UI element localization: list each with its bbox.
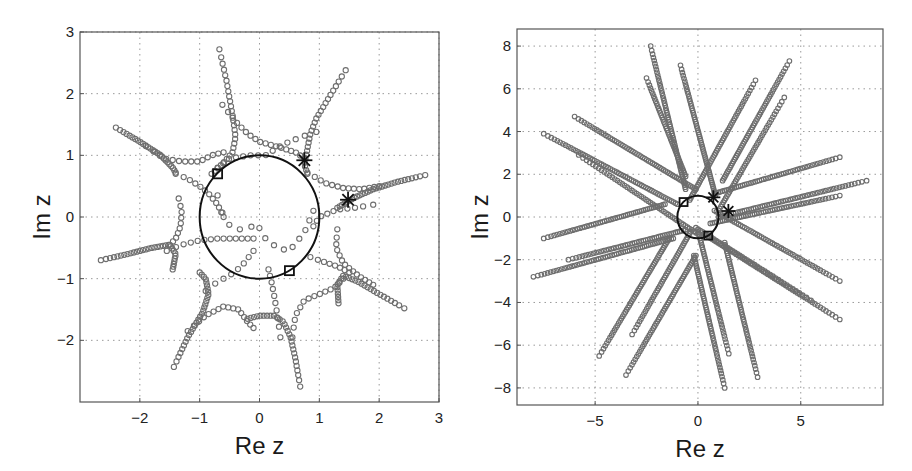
x-tick-label: −2 bbox=[131, 409, 148, 426]
data-point bbox=[198, 184, 203, 189]
star-marker bbox=[296, 152, 312, 168]
y-tick-label: 2 bbox=[503, 165, 511, 182]
grid bbox=[517, 29, 883, 405]
data-point bbox=[237, 227, 242, 232]
data-point bbox=[215, 236, 220, 241]
data-point bbox=[371, 282, 376, 287]
data-point bbox=[423, 173, 428, 178]
data-point bbox=[311, 208, 316, 213]
data-point bbox=[302, 133, 307, 138]
data-point bbox=[311, 224, 316, 229]
data-point bbox=[98, 258, 103, 263]
y-tick-label: 4 bbox=[503, 123, 511, 140]
series-arm-left-inner-vertical bbox=[167, 196, 184, 248]
data-point bbox=[193, 181, 198, 186]
data-point bbox=[335, 248, 340, 253]
data-point bbox=[312, 294, 317, 299]
data-point bbox=[249, 224, 254, 229]
y-axis-label: Im z bbox=[28, 194, 55, 239]
data-point bbox=[277, 144, 282, 149]
data-point bbox=[233, 236, 238, 241]
data-point bbox=[274, 308, 279, 313]
x-tick-label: −1 bbox=[191, 409, 208, 426]
data-point bbox=[213, 281, 218, 286]
data-point bbox=[352, 205, 357, 210]
data-point bbox=[231, 306, 236, 311]
data-point bbox=[176, 196, 181, 201]
data-point bbox=[181, 175, 186, 180]
grid bbox=[80, 32, 439, 402]
data-point bbox=[292, 317, 297, 322]
y-tick-label: −6 bbox=[494, 336, 511, 353]
series-ray-6 bbox=[716, 95, 786, 213]
data-point bbox=[321, 259, 326, 264]
data-point bbox=[727, 351, 732, 356]
data-point bbox=[343, 68, 348, 73]
y-tick-label: 0 bbox=[503, 208, 511, 225]
data-point bbox=[312, 174, 317, 179]
y-tick-label: 0 bbox=[66, 208, 74, 225]
data-point bbox=[188, 240, 193, 245]
data-point bbox=[258, 139, 263, 144]
data-point bbox=[183, 159, 188, 164]
series-arm-upper-left bbox=[113, 125, 178, 175]
series-arm-upper-left-curve bbox=[143, 144, 226, 165]
y-tick-label: −4 bbox=[494, 293, 511, 310]
chart-right-panel: −505−8−6−4−202468Re zIm z bbox=[456, 0, 912, 471]
series-arm-lower-right-inner bbox=[308, 255, 352, 276]
data-point bbox=[827, 158, 832, 163]
data-point bbox=[272, 293, 277, 298]
data-point bbox=[246, 255, 251, 260]
star-marker bbox=[706, 190, 720, 204]
star-marker bbox=[340, 192, 356, 208]
data-point bbox=[187, 178, 192, 183]
data-point bbox=[171, 364, 176, 369]
data-point bbox=[285, 140, 290, 145]
data-point bbox=[864, 178, 869, 183]
data-point bbox=[335, 184, 340, 189]
y-tick-label: −2 bbox=[57, 331, 74, 348]
data-point bbox=[241, 261, 246, 266]
data-point bbox=[325, 211, 330, 216]
data-point bbox=[324, 181, 329, 186]
series-arm-bottom-right-curve bbox=[290, 276, 346, 340]
data-point bbox=[323, 289, 328, 294]
data-point bbox=[208, 237, 213, 242]
data-point bbox=[339, 74, 344, 79]
data-point bbox=[301, 299, 306, 304]
y-tick-label: 3 bbox=[66, 23, 74, 40]
data-point bbox=[221, 304, 226, 309]
data-point bbox=[263, 236, 268, 241]
data-point bbox=[221, 67, 226, 72]
y-tick-label: −8 bbox=[494, 379, 511, 396]
series-ray-13 bbox=[566, 228, 688, 263]
x-tick-label: 2 bbox=[375, 409, 383, 426]
series-ray-23 bbox=[722, 240, 760, 379]
data-point bbox=[402, 306, 407, 311]
data-point bbox=[248, 133, 253, 138]
data-point bbox=[217, 47, 222, 52]
series-arm-lower-right bbox=[335, 273, 407, 311]
data-point bbox=[219, 55, 224, 60]
data-point bbox=[297, 236, 302, 241]
data-point bbox=[270, 286, 275, 291]
data-point bbox=[245, 236, 250, 241]
series-arm-left-lower bbox=[98, 242, 178, 272]
x-tick-labels: −505 bbox=[587, 412, 805, 429]
x-tick-label: −5 bbox=[587, 412, 604, 429]
x-axis-label: Re z bbox=[675, 435, 724, 462]
y-tick-label: 1 bbox=[66, 146, 74, 163]
x-tick-label: 5 bbox=[797, 412, 805, 429]
data-point bbox=[223, 73, 228, 78]
data-point bbox=[273, 300, 278, 305]
data-point bbox=[351, 186, 356, 191]
x-tick-label: 0 bbox=[694, 412, 702, 429]
data-point bbox=[334, 242, 339, 247]
data-point bbox=[755, 375, 760, 380]
data-point bbox=[318, 178, 323, 183]
data-point bbox=[215, 193, 220, 198]
chart-left-plot: −2−10123−2−10123Re zIm z bbox=[0, 0, 456, 471]
data-point bbox=[306, 296, 311, 301]
data-point bbox=[297, 378, 302, 383]
data-point bbox=[220, 61, 225, 66]
